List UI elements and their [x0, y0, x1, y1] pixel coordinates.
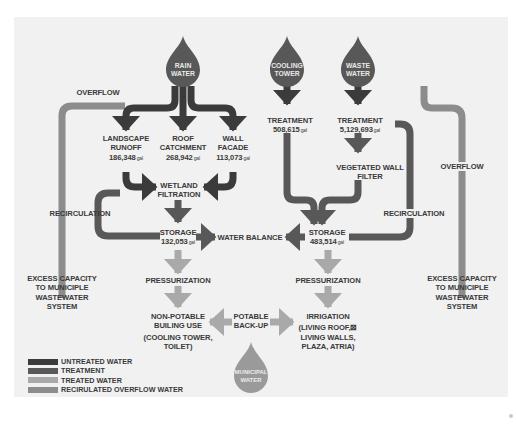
source-waste-water: WASTE WATER: [346, 62, 370, 78]
legend-swatch-treated: [28, 377, 58, 383]
corner-mark-icon: [509, 414, 513, 418]
irrigation-line2: (LIVING ROOF,⊠: [299, 323, 358, 332]
pipe-vegwall-storage: [322, 180, 358, 224]
legend-label-recirculated: RECIRULATED OVERFLOW WATER: [61, 385, 183, 394]
waste-treatment-value: 5,129,693gal: [337, 125, 382, 135]
label-overflow-right: OVERFLOW: [439, 162, 484, 171]
legend-item-recirculated: RECIRULATED OVERFLOW WATER: [28, 385, 183, 394]
label-recirculation-left: RECIRCULATION: [50, 209, 111, 218]
legend-item-treatment: TREATMENT: [28, 366, 183, 375]
nonpotable-line3: (COOLING TOWER,: [144, 333, 213, 342]
potable-line1: POTABLE: [233, 312, 268, 321]
storage-left-unit: gal: [189, 239, 195, 245]
municipal-line2: WATER: [235, 376, 268, 384]
irrigation-line4: PLAZA, ATRIA): [299, 342, 358, 351]
wall-line2: FACADE: [216, 143, 250, 152]
storage-left-value: 132,053gal: [160, 237, 197, 247]
nonpotable-line1: NON-POTABLE: [144, 312, 213, 321]
nonpotable-line4: TOILET): [144, 342, 213, 351]
wetland-line2: FILTRATION: [157, 190, 200, 199]
pipe-overflow-right: [424, 86, 462, 298]
wall-value: 113,073gal: [216, 153, 250, 163]
vegwall-line1: VEGETATED WALL: [336, 163, 404, 172]
node-wall-facade: WALL FACADE 113,073gal: [216, 134, 250, 163]
legend-swatch-treatment: [28, 368, 58, 374]
waste-treatment-amount: 5,129,693: [340, 125, 373, 134]
legend: UNTREATED WATER TREATMENT TREATED WATER …: [28, 357, 183, 394]
wetland-line1: WETLAND: [157, 181, 200, 190]
storage-right-unit: gal: [338, 239, 344, 245]
node-cooling-treatment: TREATMENT 508,615gal: [267, 116, 312, 136]
excess-left-line4: SYSTEM: [27, 302, 97, 311]
cooling-treatment-line1: TREATMENT: [267, 116, 312, 125]
roof-amount: 268,942: [166, 153, 193, 162]
landscape-amount: 186,348: [109, 153, 136, 162]
potable-line2: BACK-UP: [233, 321, 268, 330]
node-irrigation: IRRIGATION (LIVING ROOF,⊠ LIVING WALLS, …: [299, 312, 358, 352]
excess-left-line3: WASTEWATER: [27, 293, 97, 302]
node-wetland-filtration: WETLAND FILTRATION: [157, 181, 200, 200]
label-overflow-left: OVERFLOW: [76, 88, 119, 97]
node-excess-capacity-left: EXCESS CAPACITY TO MUNICIPLE WASTEWATER …: [27, 274, 97, 312]
excess-right-line1: EXCESS CAPACITY: [427, 274, 497, 283]
legend-label-treated: TREATED WATER: [61, 376, 122, 385]
source-rain-water: RAIN WATER: [171, 62, 195, 78]
cooling-line1: COOLING: [271, 62, 303, 70]
node-storage-right: STORAGE 483,514gal: [309, 228, 346, 248]
wall-line1: WALL: [216, 134, 250, 143]
source-cooling-tower: COOLING TOWER: [271, 62, 303, 78]
nonpotable-line2: BUILING USE: [144, 321, 213, 330]
storage-right-line1: STORAGE: [309, 228, 346, 237]
node-waste-treatment: TREATMENT 5,129,693gal: [337, 116, 382, 136]
municipal-line1: MUNICIPAL: [235, 368, 268, 376]
roof-line2: CATCHMENT: [160, 143, 207, 152]
source-municipal-water: MUNICIPAL WATER: [235, 368, 268, 384]
pipe-cooling-treatment: [287, 133, 314, 224]
roof-unit: gal: [194, 155, 200, 161]
storage-left-line1: STORAGE: [160, 228, 197, 237]
node-potable-backup: POTABLE BACK-UP: [233, 312, 268, 331]
waste-treatment-line1: TREATMENT: [337, 116, 382, 125]
landscape-line1: LANDSCAPE: [103, 134, 149, 143]
landscape-line2: RUNOFF: [103, 143, 149, 152]
legend-item-treated: TREATED WATER: [28, 376, 183, 385]
cooling-treatment-value: 508,615gal: [267, 125, 312, 135]
cooling-line2: TOWER: [271, 70, 303, 78]
wall-amount: 113,073: [216, 153, 242, 162]
pipe-wall-wetland: [204, 172, 233, 187]
vegwall-line2: FILTER: [336, 172, 404, 181]
rain-line1: RAIN: [171, 62, 195, 70]
wall-unit: gal: [243, 155, 249, 161]
storage-right-amount: 483,514: [310, 237, 337, 246]
landscape-value: 186,348gal: [103, 153, 149, 163]
legend-swatch-untreated: [28, 359, 58, 365]
label-recirculation-right: RECIRCULATION: [383, 209, 446, 218]
pipe-rain-landscape: [126, 86, 175, 130]
roof-value: 268,942gal: [160, 153, 207, 163]
irrigation-line1: IRRIGATION: [299, 312, 358, 321]
cooling-treatment-amount: 508,615: [273, 125, 300, 134]
legend-label-treatment: TREATMENT: [61, 366, 105, 375]
waste-treatment-unit: gal: [374, 127, 380, 133]
label-water-balance: WATER BALANCE: [218, 233, 283, 242]
node-storage-left: STORAGE 132,053gal: [160, 228, 197, 248]
excess-right-line2: TO MUNICIPLE: [427, 283, 497, 292]
excess-right-line3: WASTEWATER: [427, 293, 497, 302]
storage-right-value: 483,514gal: [309, 237, 346, 247]
cooling-treatment-unit: gal: [301, 127, 307, 133]
legend-label-untreated: UNTREATED WATER: [61, 357, 132, 366]
node-roof-catchment: ROOF CATCHMENT 268,942gal: [160, 134, 207, 163]
landscape-unit: gal: [137, 155, 143, 161]
node-non-potable-use: NON-POTABLE BUILING USE (COOLING TOWER, …: [144, 312, 213, 352]
rain-line2: WATER: [171, 70, 195, 78]
legend-item-untreated: UNTREATED WATER: [28, 357, 183, 366]
node-excess-capacity-right: EXCESS CAPACITY TO MUNICIPLE WASTEWATER …: [427, 274, 497, 312]
irrigation-line3: LIVING WALLS,: [299, 333, 358, 342]
label-pressurization-left: PRESSURIZATION: [145, 276, 210, 285]
excess-right-line4: SYSTEM: [427, 302, 497, 311]
waste-line2: WATER: [346, 70, 370, 78]
label-pressurization-right: PRESSURIZATION: [295, 276, 360, 285]
excess-left-line1: EXCESS CAPACITY: [27, 274, 97, 283]
waste-line1: WASTE: [346, 62, 370, 70]
legend-swatch-recirculated: [28, 387, 58, 393]
